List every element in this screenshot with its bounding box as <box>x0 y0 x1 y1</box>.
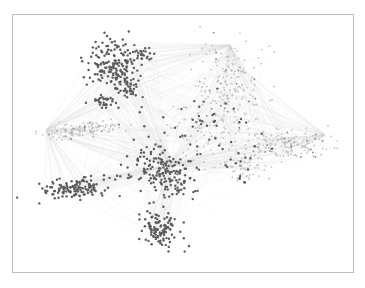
graph-node <box>140 57 142 59</box>
graph-node <box>184 250 186 252</box>
graph-node <box>293 141 295 143</box>
graph-node <box>50 138 52 140</box>
graph-node <box>206 125 208 127</box>
graph-node <box>232 171 234 173</box>
graph-node <box>247 168 249 170</box>
graph-node <box>162 152 164 154</box>
graph-node <box>314 138 316 140</box>
graph-node <box>100 192 102 194</box>
graph-node <box>181 135 183 137</box>
graph-node <box>124 43 126 45</box>
graph-node <box>258 152 260 154</box>
graph-node <box>244 144 246 146</box>
graph-node <box>141 230 143 232</box>
graph-node <box>205 43 207 45</box>
graph-node <box>240 118 242 120</box>
graph-node <box>97 78 99 80</box>
graph-node <box>217 91 219 93</box>
graph-node <box>173 164 175 166</box>
graph-node <box>321 135 323 137</box>
graph-node <box>148 165 150 167</box>
graph-node <box>227 55 229 57</box>
graph-node <box>297 144 299 146</box>
graph-node <box>113 59 115 61</box>
graph-node <box>148 202 150 204</box>
graph-node <box>235 151 237 153</box>
graph-node <box>256 165 258 167</box>
graph-node <box>264 151 266 153</box>
graph-node <box>97 56 99 58</box>
graph-node <box>279 155 281 157</box>
graph-node <box>213 32 215 34</box>
graph-node <box>89 122 91 124</box>
graph-node <box>290 143 292 145</box>
graph-node <box>256 133 258 135</box>
graph-node <box>164 177 166 179</box>
graph-node <box>176 189 178 191</box>
graph-node <box>291 145 293 147</box>
graph-node <box>153 201 155 203</box>
graph-node <box>306 140 308 142</box>
graph-node <box>215 115 217 117</box>
graph-node <box>170 161 172 163</box>
graph-node <box>108 128 110 130</box>
graph-node <box>209 122 211 124</box>
graph-node <box>84 130 86 132</box>
graph-node <box>222 119 224 121</box>
graph-node <box>169 228 171 230</box>
graph-node <box>168 238 170 240</box>
graph-node <box>242 71 244 73</box>
graph-node <box>101 77 103 79</box>
graph-node <box>63 136 65 138</box>
graph-node <box>248 177 250 179</box>
graph-node <box>176 193 178 195</box>
graph-node <box>241 165 243 167</box>
graph-node <box>211 108 213 110</box>
graph-node <box>167 250 169 252</box>
graph-node <box>233 159 235 161</box>
graph-node <box>153 160 155 162</box>
graph-node <box>98 124 100 126</box>
graph-node <box>167 212 169 214</box>
graph-node <box>174 188 176 190</box>
graph-node <box>199 119 201 121</box>
graph-node <box>116 175 118 177</box>
graph-node <box>153 236 155 238</box>
graph-node <box>137 158 139 160</box>
graph-node <box>79 195 81 197</box>
graph-node <box>90 191 92 193</box>
graph-node <box>304 149 306 151</box>
graph-node <box>150 231 152 233</box>
graph-node <box>236 119 238 121</box>
graph-node <box>230 48 232 50</box>
graph-node <box>54 132 56 134</box>
graph-node <box>179 158 181 160</box>
graph-node <box>135 86 137 88</box>
graph-node <box>244 60 246 62</box>
graph-node <box>126 82 128 84</box>
graph-node <box>127 49 129 51</box>
graph-node <box>113 55 115 57</box>
graph-node <box>223 89 225 91</box>
graph-node <box>174 218 176 220</box>
graph-node <box>130 79 132 81</box>
graph-node <box>108 66 110 68</box>
graph-node <box>122 44 124 46</box>
graph-node <box>291 149 293 151</box>
graph-node <box>231 83 233 85</box>
graph-node <box>162 166 164 168</box>
graph-node <box>142 96 144 98</box>
graph-node <box>221 117 223 119</box>
graph-node <box>220 105 222 107</box>
graph-node <box>44 190 46 192</box>
graph-node <box>110 104 112 106</box>
graph-node <box>254 167 256 169</box>
graph-node <box>163 234 165 236</box>
graph-node <box>112 129 114 131</box>
graph-node <box>237 109 239 111</box>
graph-node <box>252 96 254 98</box>
graph-node <box>271 134 273 136</box>
graph-node <box>105 107 107 109</box>
graph-node <box>119 83 121 85</box>
graph-node <box>143 167 145 169</box>
